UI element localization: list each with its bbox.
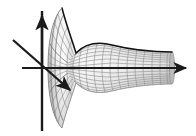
figure-container: Surface of revolution of y = 1/x about t… xyxy=(0,0,196,136)
surface-plot-svg: Surface of revolution of y = 1/x about t… xyxy=(0,0,196,136)
